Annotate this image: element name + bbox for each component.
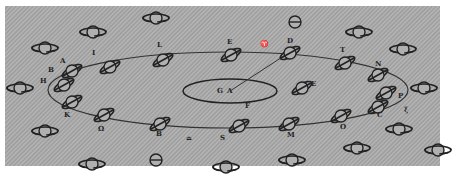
svg-text:E: E <box>311 79 316 88</box>
svg-text:O: O <box>340 122 346 131</box>
saturn-orbit-diagram: I L E D T N A B H K Ω B S M O C P E F G … <box>0 0 453 179</box>
svg-text:K: K <box>64 110 71 119</box>
svg-text:A: A <box>59 56 66 65</box>
svg-text:N: N <box>375 59 382 68</box>
svg-text:I: I <box>92 48 95 57</box>
svg-text:P: P <box>398 91 404 100</box>
svg-text:T: T <box>340 45 346 54</box>
svg-text:E: E <box>227 37 232 46</box>
svg-text:D: D <box>287 36 293 45</box>
svg-text:G: G <box>217 86 223 95</box>
svg-text:Ω: Ω <box>98 124 104 133</box>
svg-text:B: B <box>48 65 54 74</box>
svg-text:C: C <box>377 110 383 119</box>
svg-text:♈: ♈ <box>260 39 269 48</box>
svg-text:A: A <box>226 86 233 95</box>
svg-text:≏: ≏ <box>186 134 192 143</box>
svg-text:L: L <box>157 40 162 49</box>
svg-text:H: H <box>40 76 47 85</box>
svg-text:B: B <box>156 129 162 138</box>
svg-text:ξ: ξ <box>404 105 408 114</box>
svg-text:M: M <box>287 130 295 139</box>
svg-text:S: S <box>220 133 225 142</box>
svg-text:F: F <box>245 101 250 110</box>
